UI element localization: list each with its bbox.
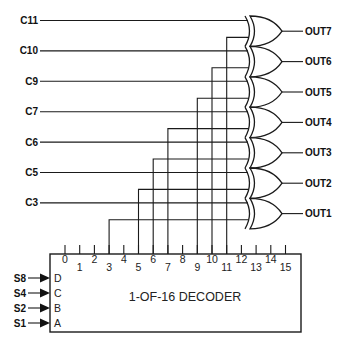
output-label: OUT1 [305, 208, 332, 219]
arrow-icon [40, 274, 50, 283]
decoder-input-pin-label: C [54, 287, 62, 299]
select-signal-label: S8 [14, 273, 27, 284]
decoder-wire-11 [227, 37, 248, 254]
decoder-wire-9 [197, 98, 248, 254]
decoder-pin-label: 0 [62, 253, 68, 265]
control-label: C7 [25, 106, 38, 117]
output-label: OUT2 [305, 178, 332, 189]
decoder-title: 1-OF-16 DECODER [129, 290, 242, 304]
xor-gates [245, 16, 282, 229]
xor-gate-OUT1 [250, 198, 282, 228]
decoder-wire-7 [168, 129, 248, 254]
decoder-pin-label: 11 [221, 261, 232, 273]
output-label: OUT3 [305, 147, 332, 158]
decoder-pin-label: 14 [265, 253, 277, 265]
arrow-icon [40, 319, 50, 328]
xor-gate-OUT7 [250, 16, 282, 46]
decoder-pin-label: 10 [206, 253, 218, 265]
output-label: OUT4 [305, 117, 332, 128]
decoder-pin-label: 8 [180, 253, 186, 265]
arrow-icon [40, 289, 50, 298]
output-label: OUT6 [305, 56, 332, 67]
decoder-pin-label: 7 [165, 261, 171, 273]
decoder-pin-label: 2 [91, 253, 97, 265]
control-label: C5 [25, 167, 38, 178]
xor-gate-OUT6 [250, 46, 282, 76]
control-label: C3 [25, 197, 38, 208]
control-label: C11 [20, 15, 38, 26]
decoder-pin-label: 3 [106, 261, 112, 273]
xor-gate-OUT5 [250, 77, 282, 107]
decoder-pin-label: 9 [194, 261, 200, 273]
decoder-pin-label: 1 [77, 261, 83, 273]
decoder-pin-label: 13 [250, 261, 262, 273]
xor-gate-OUT4 [250, 107, 282, 137]
xor-decoder-diagram: 01234567891011121314151-OF-16 DECODERS8D… [0, 0, 345, 346]
select-signal-label: S1 [14, 318, 27, 329]
arrow-icon [40, 304, 50, 313]
xor-gate-OUT2 [250, 168, 282, 198]
control-label: C6 [25, 137, 38, 148]
xor-gate-OUT3 [250, 138, 282, 168]
decoder-wire-5 [139, 189, 249, 254]
decoder-wire-10 [212, 68, 248, 254]
control-label: C9 [25, 76, 38, 87]
decoder-input-pin-label: A [54, 317, 61, 329]
decoder-pin-label: 6 [150, 253, 156, 265]
decoder-block [28, 245, 301, 332]
control-label: C10 [20, 45, 39, 56]
select-signal-label: S4 [14, 288, 27, 299]
decoder-pin-label: 12 [236, 253, 248, 265]
output-label: OUT5 [305, 87, 332, 98]
decoder-input-pin-label: B [54, 302, 61, 314]
decoder-pin-label: 5 [136, 261, 142, 273]
output-label: OUT7 [305, 26, 332, 37]
decoder-pin-label: 4 [121, 253, 127, 265]
decoder-pin-label: 15 [280, 261, 292, 273]
decoder-input-pin-label: D [54, 272, 62, 284]
select-signal-label: S2 [14, 303, 27, 314]
